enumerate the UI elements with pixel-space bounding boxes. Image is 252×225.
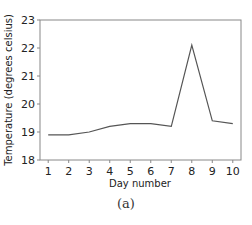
x-tick-label: 5 xyxy=(127,165,134,178)
x-axis-label: Day number xyxy=(109,178,172,189)
x-tick-label: 3 xyxy=(86,165,93,178)
y-tick-label: 21 xyxy=(21,70,35,83)
y-tick-label: 23 xyxy=(21,14,35,27)
x-tick-label: 8 xyxy=(188,165,195,178)
temperature-line-chart: 181920212223 12345678910 Day number Temp… xyxy=(0,0,252,225)
x-tick-label: 9 xyxy=(209,165,216,178)
x-tick-label: 2 xyxy=(65,165,72,178)
x-tick-label: 10 xyxy=(226,165,240,178)
y-tick-label: 18 xyxy=(21,154,35,167)
y-tick-label: 22 xyxy=(21,42,35,55)
y-tick-label: 19 xyxy=(21,126,35,139)
x-tick-label: 4 xyxy=(106,165,113,178)
x-tick-label: 1 xyxy=(45,165,52,178)
plot-frame xyxy=(40,20,241,160)
y-axis-label: Temperature (degrees celsius) xyxy=(3,14,14,167)
temperature-series-line xyxy=(48,45,233,135)
y-tick-label: 20 xyxy=(21,98,35,111)
x-axis: 12345678910 xyxy=(45,160,240,178)
x-tick-label: 6 xyxy=(147,165,154,178)
y-axis: 181920212223 xyxy=(21,14,40,167)
x-tick-label: 7 xyxy=(168,165,175,178)
figure-caption: (a) xyxy=(0,196,252,211)
